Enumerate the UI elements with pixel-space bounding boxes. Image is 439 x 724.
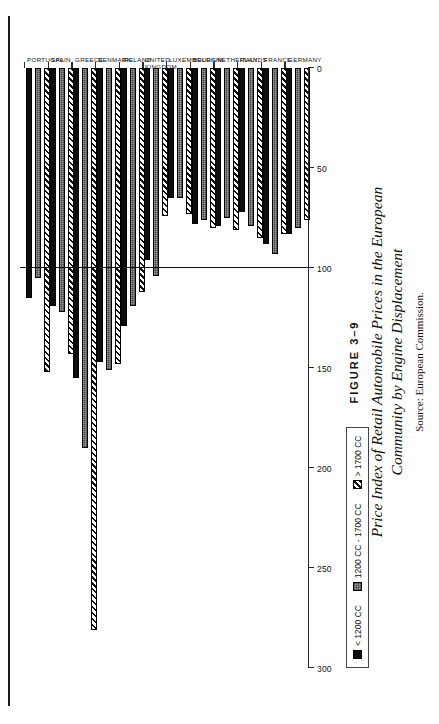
value-tick-label-200: 200: [317, 465, 332, 475]
bar-germany-s1: [295, 68, 301, 228]
bar-group: [261, 68, 285, 668]
bar-luxembourg-s1: [177, 68, 183, 198]
bar-group: [24, 68, 48, 668]
bar-denmark-s2: [115, 68, 121, 364]
bar-group: [213, 68, 237, 668]
bar-ireland-s1: [130, 68, 136, 306]
figure-source: Source: European Commission.: [413, 0, 425, 724]
value-tick-0: [308, 67, 314, 68]
bar-luxembourg-s2: [186, 68, 192, 214]
bar-netherlands-s0: [215, 68, 221, 226]
bar-group: [166, 68, 190, 668]
bar-belgium-s0: [192, 68, 198, 224]
figure-rotation-wrapper: GERMANYFRANCEITALYNETHERLANDSBELGIUMLUXE…: [0, 0, 439, 724]
value-tick-label-300: 300: [317, 665, 332, 675]
chart-plot: GERMANYFRANCEITALYNETHERLANDSBELGIUMLUXE…: [24, 68, 330, 668]
chart-plot-area: [24, 68, 308, 668]
category-tick: [71, 62, 72, 68]
bar-france-s1: [272, 68, 278, 254]
figure-caption: FIGURE 3–9 Price Index of Retail Automob…: [348, 0, 425, 724]
figure-title-line-1: Price Index of Retail Automobile Prices …: [367, 0, 387, 724]
bar-luxembourg-s0: [168, 68, 174, 198]
value-tick-label-150: 150: [317, 365, 332, 375]
category-label-germany: GERMANY: [288, 56, 322, 63]
bar-portugal-s0: [26, 68, 32, 298]
value-tick-100: [308, 267, 314, 268]
bar-greece-s2: [91, 68, 97, 630]
bar-italy-s1: [248, 68, 254, 226]
value-tick-label-50: 50: [317, 165, 327, 175]
category-label-greece: GREECE: [75, 56, 103, 63]
bar-greece-s0: [73, 68, 79, 378]
figure-number: FIGURE 3–9: [348, 0, 360, 724]
bar-netherlands-s2: [233, 68, 239, 230]
bar-group: [284, 68, 308, 668]
bar-ireland-s0: [121, 68, 127, 326]
figure-title-line-2: Community by Engine Displacement: [387, 0, 407, 724]
value-tick-50: [308, 167, 314, 168]
bar-ireland-s2: [139, 68, 145, 292]
bar-germany-s0: [286, 68, 292, 234]
top-rule-divider: [8, 16, 10, 706]
bar-greece-s1: [82, 68, 88, 448]
bar-spain-s2: [68, 68, 74, 354]
bar-group: [119, 68, 143, 668]
category-label-france: FRANCE: [264, 56, 292, 63]
category-tick: [24, 62, 25, 68]
value-tick-label-250: 250: [317, 565, 332, 575]
bar-italy-s2: [257, 68, 263, 238]
value-tick-200: [308, 467, 314, 468]
bar-group: [190, 68, 214, 668]
bar-group: [71, 68, 95, 668]
bar-denmark-s1: [106, 68, 112, 370]
bar-spain-s1: [59, 68, 65, 312]
value-axis-line: [308, 68, 309, 668]
bar-united-kingdom-s2: [162, 68, 168, 216]
value-tick-label-0: 0: [317, 65, 322, 75]
bar-group: [95, 68, 119, 668]
bar-united-kingdom-s1: [153, 68, 159, 276]
category-label-portugal: PORTUGAL: [27, 56, 64, 63]
bar-france-s2: [281, 68, 287, 234]
bar-netherlands-s1: [224, 68, 230, 218]
bar-belgium-s1: [201, 68, 207, 220]
bar-group: [237, 68, 261, 668]
value-tick-150: [308, 367, 314, 368]
bar-group: [142, 68, 166, 668]
value-tick-250: [308, 567, 314, 568]
bar-france-s0: [263, 68, 269, 244]
value-tick-label-100: 100: [317, 265, 332, 275]
bar-italy-s0: [239, 68, 245, 212]
bar-portugal-s2: [44, 68, 50, 372]
figure: GERMANYFRANCEITALYNETHERLANDSBELGIUMLUXE…: [0, 0, 439, 724]
bar-belgium-s2: [210, 68, 216, 228]
bar-group: [48, 68, 72, 668]
bar-united-kingdom-s0: [144, 68, 150, 260]
category-label-netherlands: NETHERLANDS: [217, 56, 267, 63]
reference-line-100: [20, 267, 310, 268]
bar-portugal-s1: [35, 68, 41, 278]
bar-denmark-s0: [97, 68, 103, 362]
category-label-denmark: DENMARK: [98, 56, 131, 63]
value-tick-300: [308, 667, 314, 668]
bar-spain-s0: [50, 68, 56, 306]
